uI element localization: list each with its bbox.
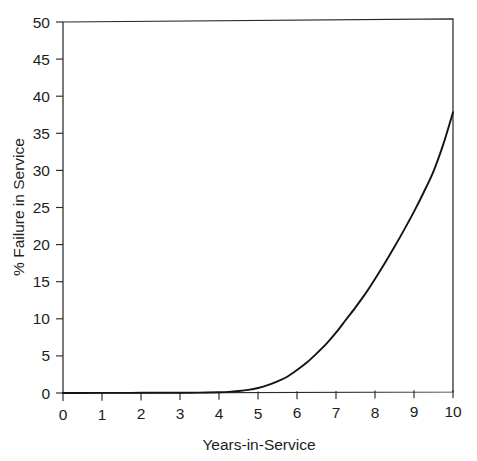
x-tick-label-4: 4 xyxy=(215,405,224,422)
x-tick-label-6: 6 xyxy=(293,404,302,421)
y-tick-label-15: 15 xyxy=(33,273,50,290)
chart-figure: 0 5 10 15 20 25 30 35 40 45 50 0 xyxy=(0,0,477,461)
x-tick-label-0: 0 xyxy=(59,406,68,423)
y-tick-label-50: 50 xyxy=(33,14,51,31)
y-axis-tick-labels: 0 5 10 15 20 25 30 35 40 45 50 xyxy=(33,14,51,402)
x-axis-tick-labels: 0 1 2 3 4 5 6 7 8 9 10 xyxy=(59,403,462,423)
x-tick-label-1: 1 xyxy=(98,406,107,423)
y-tick-label-25: 25 xyxy=(33,199,50,216)
x-axis-title: Years-in-Service xyxy=(202,436,315,453)
y-tick-label-30: 30 xyxy=(33,162,51,179)
x-tick-label-5: 5 xyxy=(254,405,263,422)
chart-svg: 0 5 10 15 20 25 30 35 40 45 50 0 xyxy=(0,0,477,461)
y-tick-label-0: 0 xyxy=(41,385,50,402)
x-tick-label-9: 9 xyxy=(410,403,419,420)
x-tick-label-2: 2 xyxy=(137,405,146,422)
y-tick-label-35: 35 xyxy=(33,125,50,142)
y-tick-label-10: 10 xyxy=(33,310,51,327)
y-axis-ticks xyxy=(56,22,63,393)
y-tick-label-5: 5 xyxy=(41,347,50,364)
y-axis-title: % Failure in Service xyxy=(10,138,27,276)
x-tick-label-7: 7 xyxy=(332,404,341,421)
x-tick-label-8: 8 xyxy=(371,404,380,421)
x-tick-label-3: 3 xyxy=(176,405,185,422)
y-tick-label-20: 20 xyxy=(33,236,51,253)
x-tick-label-10: 10 xyxy=(444,403,462,420)
y-tick-label-40: 40 xyxy=(33,88,51,105)
frame-box xyxy=(63,19,453,393)
plot-frame xyxy=(63,19,453,393)
y-tick-label-45: 45 xyxy=(33,51,50,68)
data-series-failure-in-service xyxy=(63,112,453,393)
